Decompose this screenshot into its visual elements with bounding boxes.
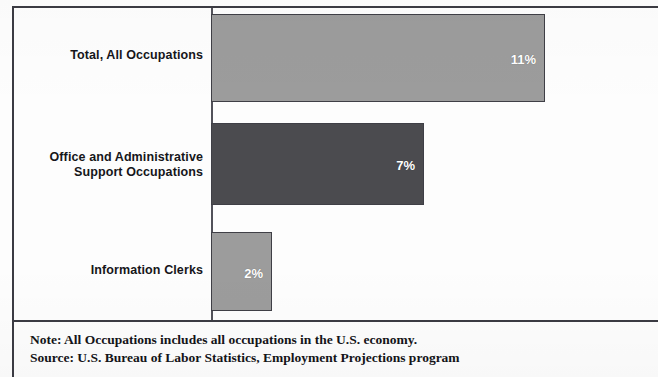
bar-label-line-1: Information Clerks — [91, 263, 203, 277]
bar-value-total-all-occupations: 11% — [511, 53, 536, 66]
bar-label-total-all-occupations: Total, All Occupations — [23, 48, 203, 63]
chart-baseline-rule — [12, 320, 658, 322]
footnote-source: Source: U.S. Bureau of Labor Statistics,… — [30, 349, 630, 367]
bar-row-office-admin-support: Office and Administrative Support Occupa… — [14, 118, 658, 213]
bar-value-information-clerks: 2% — [244, 267, 263, 280]
bar-label-line-2: Support Occupations — [74, 165, 203, 179]
bar-label-line-1: Total, All Occupations — [70, 48, 203, 62]
bar-information-clerks: 2% — [211, 232, 272, 311]
bar-row-total-all-occupations: Total, All Occupations 11% — [14, 8, 658, 110]
bar-row-information-clerks: Information Clerks 2% — [14, 223, 658, 320]
bar-label-line-1: Office and Administrative — [50, 150, 203, 164]
footnote-note: Note: All Occupations includes all occup… — [30, 331, 630, 349]
plot-area: Total, All Occupations 11% Office and Ad… — [14, 8, 658, 320]
bar-label-office-admin-support: Office and Administrative Support Occupa… — [23, 150, 203, 180]
bar-total-all-occupations: 11% — [211, 14, 545, 102]
chart-figure: Total, All Occupations 11% Office and Ad… — [0, 0, 658, 377]
bar-value-office-admin-support: 7% — [396, 159, 415, 172]
bar-label-information-clerks: Information Clerks — [23, 263, 203, 278]
chart-footnote: Note: All Occupations includes all occup… — [30, 331, 630, 367]
bar-office-admin-support: 7% — [211, 123, 424, 205]
